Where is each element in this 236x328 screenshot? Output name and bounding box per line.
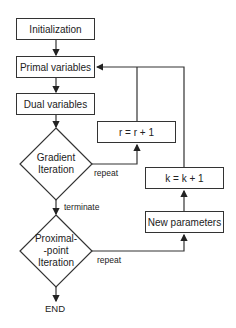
end-label: END <box>45 303 65 314</box>
gradient-line-2: Iteration <box>26 164 86 176</box>
proximal-line-3: Iteration <box>26 257 86 269</box>
primal-variables-box: Primal variables <box>16 56 95 78</box>
new-parameters-box: New parameters <box>145 211 224 233</box>
primal-variables-label: Primal variables <box>20 62 91 73</box>
proximal-line-1: Proximal- <box>26 233 86 245</box>
gradient-line-1: Gradient <box>26 152 86 164</box>
r-update-box: r = r + 1 <box>97 121 176 143</box>
dual-variables-label: Dual variables <box>24 99 87 110</box>
new-parameters-label: New parameters <box>148 217 221 228</box>
initialization-box: Initialization <box>16 18 95 40</box>
initialization-label: Initialization <box>29 24 81 35</box>
r-update-label: r = r + 1 <box>119 127 154 138</box>
k-update-label: k = k + 1 <box>165 173 203 184</box>
gradient-iteration-label: Gradient Iteration <box>26 152 86 176</box>
proximal-iteration-label: Proximal- -point Iteration <box>26 233 86 269</box>
gradient-repeat-label: repeat <box>94 168 118 178</box>
proximal-repeat-label: repeat <box>97 255 121 265</box>
proximal-line-2: -point <box>26 245 86 257</box>
k-update-box: k = k + 1 <box>145 167 224 189</box>
dual-variables-box: Dual variables <box>16 93 95 115</box>
gradient-terminate-label: terminate <box>64 202 99 212</box>
